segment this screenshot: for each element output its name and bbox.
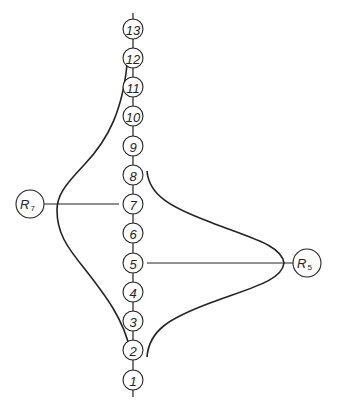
node-label: 2 <box>128 344 137 359</box>
node-label: 11 <box>126 81 140 96</box>
node-label: 13 <box>126 23 141 38</box>
node-label: 9 <box>129 140 136 155</box>
node-label: 1 <box>129 374 136 389</box>
node-label: 8 <box>129 169 137 184</box>
chain-node-4: 4 <box>123 282 143 302</box>
chain-node-3: 3 <box>123 311 143 331</box>
node-label: 6 <box>129 227 137 242</box>
receptor-r7: R7 <box>16 190 44 218</box>
left-distribution-curve <box>57 54 130 350</box>
chain-node-5: 5 <box>123 253 143 273</box>
right-distribution-curve <box>147 171 284 357</box>
chain-node-11: 11 <box>123 77 143 97</box>
chain-diagram: 13121110987654321 R7 R5 <box>0 0 342 403</box>
chain-node-8: 8 <box>123 165 143 185</box>
chain-node-2: 2 <box>123 340 143 360</box>
node-label: 5 <box>129 257 137 272</box>
chain-node-13: 13 <box>123 19 143 39</box>
node-label: 4 <box>129 286 136 301</box>
node-label: 12 <box>126 52 141 67</box>
node-label: 10 <box>126 110 141 125</box>
node-label: 3 <box>129 315 137 330</box>
receptor-r5: R5 <box>293 249 321 277</box>
chain-node-1: 1 <box>123 370 143 390</box>
chain-node-7: 7 <box>123 194 143 214</box>
chain-node-10: 10 <box>123 106 143 126</box>
node-label: 7 <box>129 198 137 213</box>
chain-node-9: 9 <box>123 136 143 156</box>
chain-node-6: 6 <box>123 223 143 243</box>
chain-node-12: 12 <box>123 48 143 68</box>
